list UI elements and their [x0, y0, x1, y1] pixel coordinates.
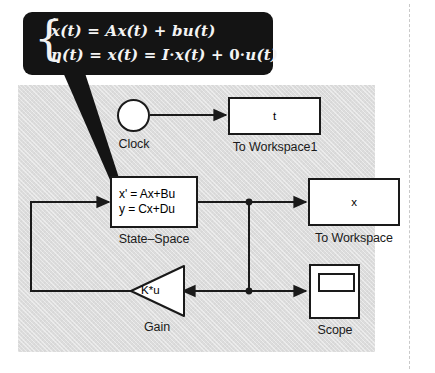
to-workspace1-value: t	[273, 109, 276, 123]
eq2-x-t: x(t)	[108, 46, 139, 64]
state-space-line-2: y = Cx+Du	[119, 202, 175, 216]
equation-line-1: x(t) = Ax(t) + bu(t)	[51, 22, 215, 40]
eq1-plus: +	[154, 22, 167, 40]
to-workspace-caption: To Workspace	[299, 231, 409, 245]
eq2-eta: η(t)	[51, 46, 84, 64]
eq2-equals-2: =	[144, 46, 157, 64]
state-space-line-1: x' = Ax+Bu	[119, 187, 175, 201]
simulink-block-diagram-figure: { x(t) = Ax(t) + bu(t) η(t) = x(t) = I·x…	[0, 0, 435, 373]
gain-caption: Gain	[127, 320, 187, 334]
scope-block[interactable]	[309, 264, 360, 319]
scope-caption: Scope	[305, 323, 365, 337]
state-space-block[interactable]: x' = Ax+Buy = Cx+Du	[110, 176, 198, 228]
eq1-input-u: u(t)	[183, 22, 216, 40]
eq1-matrix-a: A	[106, 22, 118, 40]
eq1-xdot: x	[51, 22, 60, 40]
eq1-equals: =	[87, 22, 100, 40]
scope-screen-icon	[318, 273, 355, 292]
equation-callout: { x(t) = Ax(t) + bu(t) η(t) = x(t) = I·x…	[23, 12, 273, 75]
to-workspace-value: x	[351, 195, 357, 209]
gain-value: K*u	[141, 284, 160, 296]
eq2-u-t: u(t)	[245, 46, 278, 64]
state-space-caption: State–Space	[102, 232, 206, 246]
eq1-state-x: x(t)	[117, 22, 148, 40]
junction-dot-top	[246, 199, 253, 206]
to-workspace1-caption: To Workspace1	[219, 140, 331, 154]
to-workspace1-block[interactable]: t	[228, 97, 321, 135]
equation-line-2: η(t) = x(t) = I·x(t) + 0·u(t)	[51, 46, 278, 64]
eq2-plus: +	[211, 46, 224, 64]
junction-dot-bottom	[246, 288, 253, 295]
eq2-x-t2: x(t)	[175, 46, 206, 64]
clock-block[interactable]	[117, 99, 150, 132]
callout-pointer	[62, 70, 119, 180]
clock-caption: Clock	[103, 137, 165, 151]
eq2-zero: 0	[229, 46, 240, 64]
state-space-equations: x' = Ax+Buy = Cx+Du	[119, 187, 175, 217]
eq1-arg1: (t)	[60, 22, 82, 40]
eq2-equals-1: =	[89, 46, 102, 64]
to-workspace-block[interactable]: x	[308, 178, 400, 226]
eq1-vector-b: b	[172, 22, 183, 40]
